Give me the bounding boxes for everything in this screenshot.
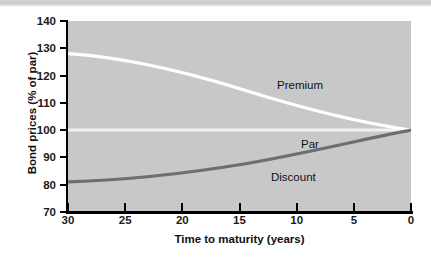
x-tick-label: 10 bbox=[277, 214, 317, 227]
premium-curve bbox=[68, 54, 411, 130]
x-tick-mark bbox=[239, 203, 241, 212]
x-tick-label: 5 bbox=[334, 214, 374, 227]
plot-curves-svg bbox=[68, 21, 411, 212]
bond-price-vs-maturity-chart: Premium Par Discount 7080901001101201301… bbox=[0, 0, 431, 261]
y-tick-mark bbox=[60, 102, 68, 104]
y-tick-mark bbox=[60, 156, 68, 158]
x-tick-label: 15 bbox=[220, 214, 260, 227]
x-tick-mark bbox=[296, 203, 298, 212]
series-label-par: Par bbox=[301, 138, 319, 150]
y-tick-mark bbox=[60, 184, 68, 186]
y-tick-mark bbox=[60, 75, 68, 77]
y-tick-mark bbox=[60, 20, 68, 22]
screenshot-root: Premium Par Discount 7080901001101201301… bbox=[0, 0, 431, 261]
series-label-discount: Discount bbox=[271, 171, 316, 183]
x-tick-mark bbox=[124, 203, 126, 212]
x-axis-title: Time to maturity (years) bbox=[68, 233, 411, 245]
x-tick-label: 0 bbox=[391, 214, 431, 227]
x-tick-mark bbox=[67, 203, 69, 212]
discount-curve bbox=[68, 130, 411, 182]
series-label-premium: Premium bbox=[277, 79, 323, 91]
y-tick-mark bbox=[60, 47, 68, 49]
plot-area: Premium Par Discount bbox=[68, 21, 411, 212]
x-tick-label: 20 bbox=[162, 214, 202, 227]
y-axis-title: Bond prices (% of par) bbox=[26, 13, 38, 213]
y-tick-mark bbox=[60, 129, 68, 131]
x-tick-label: 30 bbox=[48, 214, 88, 227]
x-tick-label: 25 bbox=[105, 214, 145, 227]
x-tick-mark bbox=[410, 203, 412, 212]
x-tick-mark bbox=[353, 203, 355, 212]
x-tick-mark bbox=[181, 203, 183, 212]
